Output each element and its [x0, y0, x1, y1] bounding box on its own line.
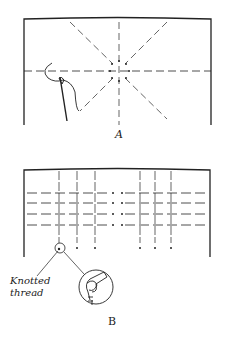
panel-b-label: B	[108, 315, 116, 328]
guide-line-diag-4	[125, 78, 167, 119]
guide-line-diag-3	[80, 78, 113, 111]
panel-b-frame	[24, 169, 210, 258]
vertical-threads	[59, 171, 171, 243]
needle-icon	[59, 77, 67, 121]
illustration: A	[0, 0, 225, 337]
callout-text-line1: Knotted	[9, 275, 50, 286]
knot-marker	[55, 243, 65, 253]
panel-b	[24, 169, 210, 306]
guide-line-diag-2	[125, 22, 167, 64]
knot-detail-icon	[86, 272, 107, 305]
panel-a	[24, 18, 211, 126]
callout-text-line2: thread	[10, 287, 44, 298]
panel-a-label: A	[114, 128, 123, 141]
horizontal-threads	[27, 193, 208, 225]
detail-leader	[64, 252, 84, 274]
guide-line-diag-1	[70, 22, 113, 64]
callout-leader	[37, 251, 58, 276]
